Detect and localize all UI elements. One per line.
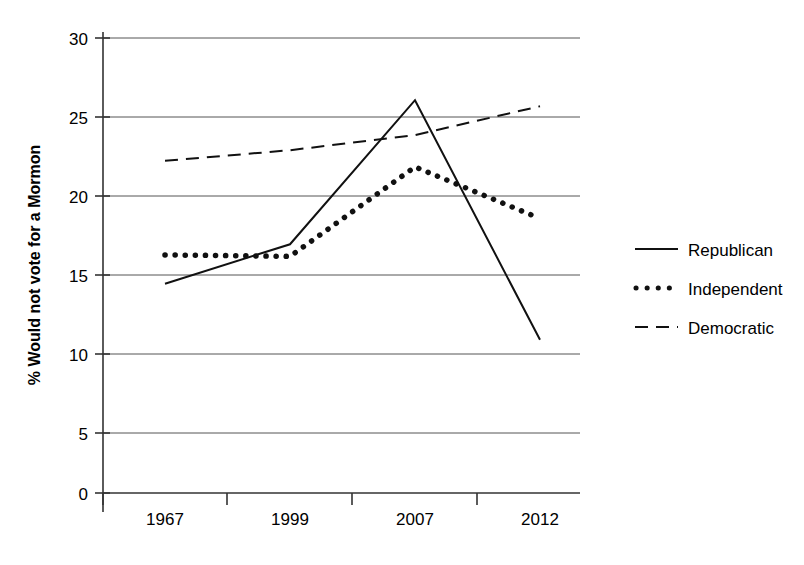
y-tick-label-20: 20 — [69, 188, 88, 207]
x-tick-labels: 1967 1999 2007 2012 — [146, 510, 559, 529]
legend-label-democratic: Democratic — [688, 319, 774, 338]
y-tick-label-5: 5 — [79, 425, 88, 444]
series-line-republican — [165, 100, 540, 340]
x-tick-label-1967: 1967 — [146, 510, 184, 529]
legend: Republican Independent Democratic — [635, 241, 783, 338]
y-tick-label-25: 25 — [69, 109, 88, 128]
chart-canvas: 30 25 20 15 10 5 0 1967 1999 2007 2012 %… — [0, 0, 804, 565]
data-series-layer — [165, 100, 540, 340]
legend-label-republican: Republican — [688, 241, 773, 260]
series-line-democratic — [165, 106, 540, 161]
legend-entry-independent[interactable]: Independent — [636, 280, 783, 299]
x-tick-label-1999: 1999 — [271, 510, 309, 529]
legend-label-independent: Independent — [688, 280, 783, 299]
x-tick-label-2012: 2012 — [521, 510, 559, 529]
y-tick-label-0: 0 — [79, 485, 88, 504]
axes — [103, 32, 580, 512]
legend-entry-democratic[interactable]: Democratic — [635, 319, 774, 338]
gridlines — [103, 38, 580, 433]
y-tick-label-15: 15 — [69, 267, 88, 286]
line-chart: 30 25 20 15 10 5 0 1967 1999 2007 2012 %… — [0, 0, 804, 565]
series-line-independent — [165, 167, 540, 256]
x-tick-label-2007: 2007 — [396, 510, 434, 529]
y-axis-title: % Would not vote for a Mormon — [26, 145, 43, 386]
y-tick-labels: 30 25 20 15 10 5 0 — [69, 30, 88, 504]
legend-entry-republican[interactable]: Republican — [635, 241, 773, 260]
y-tick-label-30: 30 — [69, 30, 88, 49]
y-tick-label-10: 10 — [69, 346, 88, 365]
x-tick-marks — [103, 493, 477, 505]
